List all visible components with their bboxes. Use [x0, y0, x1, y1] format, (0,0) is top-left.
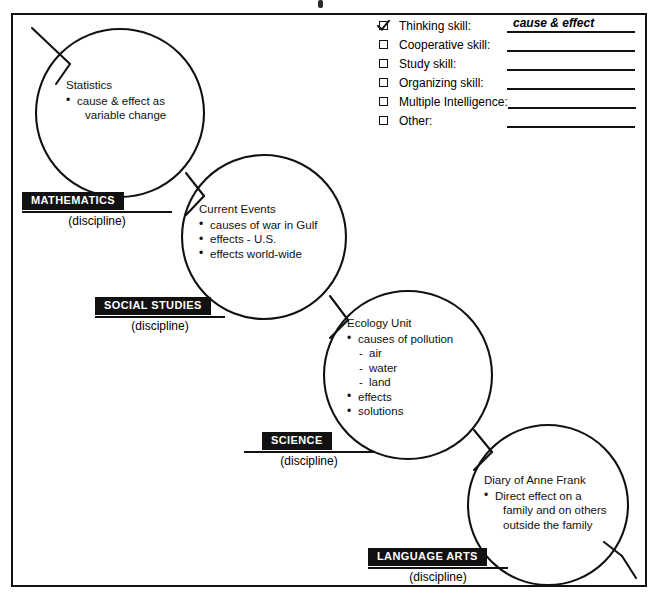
checklist-label: Study skill:	[399, 57, 456, 71]
list-item: land	[347, 375, 453, 390]
checklist-blank-value: cause & effect	[513, 17, 594, 30]
discipline-mathematics: MATHEMATICS (discipline)	[22, 190, 172, 229]
node-text-current-events: Current Events causes of war in Gulf eff…	[199, 202, 317, 261]
node-text-ecology-unit: Ecology Unit causes of pollution air wat…	[347, 316, 453, 419]
checklist-row-thinking-skill[interactable]: Thinking skill: cause & effect	[379, 16, 635, 35]
list-item: effects world-wide	[199, 247, 317, 262]
list-item: effects	[347, 390, 453, 405]
list-item: effects - U.S.	[199, 232, 317, 247]
discipline-tag-label: SOCIAL STUDIES	[95, 297, 211, 315]
checklist-row-multiple-intelligence[interactable]: Multiple Intelligence:	[379, 92, 635, 111]
discipline-tag-label: MATHEMATICS	[22, 192, 124, 210]
checkbox-thinking-skill[interactable]	[379, 21, 388, 30]
discipline-science: SCIENCE (discipline)	[244, 430, 374, 469]
list-item: causes of war in Gulf	[199, 218, 317, 233]
node-title-ecology-unit: Ecology Unit	[347, 316, 453, 331]
checkbox-multiple-intelligence[interactable]	[379, 97, 388, 106]
discipline-caption: (discipline)	[368, 569, 508, 585]
list-item: causes of pollution	[347, 332, 453, 347]
discipline-language-arts: LANGUAGE ARTS (discipline)	[368, 546, 508, 585]
node-title-diary-of-anne-frank: Diary of Anne Frank	[484, 473, 607, 488]
list-item: cause & effect as	[66, 94, 166, 109]
checklist-blank-field[interactable]: cause & effect	[507, 19, 635, 33]
node-list-statistics: cause & effect as variable change	[66, 94, 166, 123]
checklist-blank-rule	[507, 126, 635, 128]
scan-artifact-mark	[318, 0, 323, 8]
checklist-row-cooperative-skill[interactable]: Cooperative skill:	[379, 35, 635, 54]
list-item: water	[347, 361, 453, 376]
list-item: solutions	[347, 404, 453, 419]
node-title-current-events: Current Events	[199, 202, 317, 217]
node-text-statistics: Statistics cause & effect as variable ch…	[66, 78, 166, 123]
checklist-blank-rule	[507, 88, 635, 90]
checklist-label: Other:	[399, 114, 432, 128]
list-item: Direct effect on a	[484, 489, 607, 504]
worksheet-page: Statistics cause & effect as variable ch…	[0, 0, 658, 602]
discipline-tag-label: SCIENCE	[262, 432, 332, 450]
checklist-blank-field[interactable]	[507, 57, 635, 71]
checklist-blank-field[interactable]	[507, 38, 635, 52]
node-text-diary-of-anne-frank: Diary of Anne Frank Direct effect on a f…	[484, 473, 607, 532]
checklist-row-study-skill[interactable]: Study skill:	[379, 54, 635, 73]
node-list-diary-of-anne-frank: Direct effect on a family and on others …	[484, 489, 607, 533]
list-item: air	[347, 346, 453, 361]
checklist-label: Thinking skill:	[399, 19, 471, 33]
checklist-row-other[interactable]: Other:	[379, 111, 635, 130]
checklist-blank-rule	[507, 50, 635, 52]
checkbox-organizing-skill[interactable]	[379, 78, 388, 87]
discipline-caption: (discipline)	[22, 213, 172, 229]
skills-checklist: Thinking skill: cause & effect Cooperati…	[379, 16, 635, 130]
checklist-blank-field[interactable]	[508, 95, 636, 109]
list-item: variable change	[66, 108, 166, 123]
checklist-label: Cooperative skill:	[399, 38, 490, 52]
checklist-blank-field[interactable]	[507, 114, 635, 128]
checklist-label: Multiple Intelligence:	[399, 95, 508, 109]
checklist-blank-field[interactable]	[507, 76, 635, 90]
discipline-social-studies: SOCIAL STUDIES (discipline)	[95, 295, 225, 334]
discipline-caption: (discipline)	[244, 453, 374, 469]
checkbox-other[interactable]	[379, 116, 388, 125]
checkbox-cooperative-skill[interactable]	[379, 40, 388, 49]
node-list-ecology-unit: causes of pollution air water land effec…	[347, 332, 453, 419]
discipline-caption: (discipline)	[95, 318, 225, 334]
list-item: outside the family	[484, 518, 607, 533]
node-title-statistics: Statistics	[66, 78, 166, 93]
checklist-label: Organizing skill:	[399, 76, 484, 90]
checklist-blank-rule	[507, 69, 635, 71]
discipline-tag-label: LANGUAGE ARTS	[368, 548, 487, 566]
checklist-blank-rule	[507, 31, 635, 33]
checklist-blank-rule	[508, 107, 636, 109]
node-list-current-events: causes of war in Gulf effects - U.S. eff…	[199, 218, 317, 262]
checklist-row-organizing-skill[interactable]: Organizing skill:	[379, 73, 635, 92]
list-item: family and on others	[484, 503, 607, 518]
checkbox-study-skill[interactable]	[379, 59, 388, 68]
